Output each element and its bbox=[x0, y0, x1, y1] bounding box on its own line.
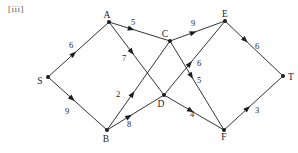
edge-weight-C-F: 5 bbox=[197, 75, 201, 85]
edge-weight-D-F: 4 bbox=[190, 109, 195, 119]
arrowhead-A-D-icon bbox=[128, 48, 136, 57]
node-dot-E bbox=[223, 19, 227, 23]
node-dot-T bbox=[281, 74, 285, 78]
node-label-C: C bbox=[162, 29, 168, 39]
edge-S-B bbox=[48, 77, 107, 130]
edge-A-D bbox=[109, 22, 164, 95]
edge-F-T bbox=[224, 76, 283, 130]
edge-weight-A-D: 7 bbox=[122, 53, 126, 63]
node-label-T: T bbox=[288, 72, 294, 82]
node-dot-S bbox=[46, 75, 50, 79]
node-dot-D bbox=[162, 93, 166, 97]
edge-weight-B-D: 8 bbox=[127, 119, 131, 129]
edge-weight-S-A: 6 bbox=[69, 40, 73, 50]
node-label-A: A bbox=[104, 10, 111, 20]
node-dot-A bbox=[107, 20, 111, 24]
node-label-E: E bbox=[222, 9, 228, 19]
node-label-B: B bbox=[103, 134, 109, 144]
arrowhead-C-E-icon bbox=[189, 29, 197, 36]
arrowhead-B-C-icon bbox=[128, 90, 136, 99]
edge-weight-D-E: 6 bbox=[197, 58, 201, 68]
edge-weight-E-T: 6 bbox=[255, 41, 259, 51]
graph-canvas: 695728956463SABCDEFT bbox=[0, 0, 298, 153]
arrowhead-C-F-icon bbox=[187, 72, 195, 81]
node-dot-B bbox=[105, 128, 109, 132]
edge-weight-S-B: 9 bbox=[65, 106, 69, 116]
edge-B-D bbox=[107, 95, 164, 130]
edge-weight-F-T: 3 bbox=[255, 105, 259, 115]
node-label-F: F bbox=[221, 132, 226, 142]
edge-weight-A-C: 5 bbox=[131, 17, 135, 27]
node-label-S: S bbox=[37, 76, 42, 86]
network-diagram: [iii] 695728956463SABCDEFT bbox=[0, 0, 298, 153]
edge-weight-B-C: 2 bbox=[116, 89, 120, 99]
edge-S-A bbox=[48, 22, 109, 77]
edge-weight-C-E: 9 bbox=[191, 18, 195, 28]
node-dot-C bbox=[168, 39, 172, 43]
node-label-D: D bbox=[158, 99, 165, 109]
edge-B-C bbox=[107, 41, 170, 130]
